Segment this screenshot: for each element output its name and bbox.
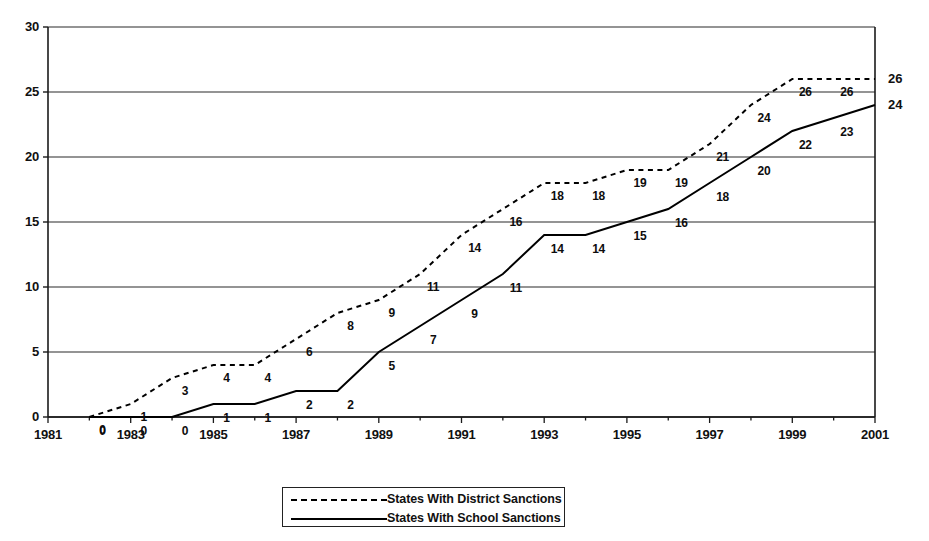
data-point-label: 1 <box>141 410 147 424</box>
data-point-label: 21 <box>716 150 729 164</box>
x-axis-tick-label: 1991 <box>432 427 492 442</box>
x-axis-tick-label: 2001 <box>845 427 905 442</box>
series-end-label: 24 <box>888 97 902 112</box>
data-point-label: 5 <box>389 359 395 373</box>
data-point-label: 19 <box>634 176 647 190</box>
data-point-label: 11 <box>510 281 522 295</box>
data-point-label: 26 <box>799 85 812 99</box>
dashed-line-icon <box>291 492 387 506</box>
data-point-label: 24 <box>758 111 771 125</box>
data-point-label: 20 <box>758 164 771 178</box>
data-point-label: 14 <box>551 242 564 256</box>
legend-item-school: States With School Sanctions <box>283 508 564 527</box>
data-point-label: 16 <box>675 216 688 230</box>
data-point-label: 26 <box>840 85 853 99</box>
data-point-label: 4 <box>265 371 271 385</box>
data-point-label: 18 <box>592 189 605 203</box>
x-axis-tick-label: 1997 <box>680 427 740 442</box>
data-point-label: 9 <box>389 306 395 320</box>
y-axis-tick-label: 10 <box>25 279 39 294</box>
gridlines <box>48 27 875 417</box>
y-axis-tick-label: 30 <box>25 19 39 34</box>
series-lines <box>89 79 875 417</box>
solid-line-icon <box>291 511 387 525</box>
data-point-label: 1 <box>265 411 271 425</box>
data-point-label: 14 <box>468 241 481 255</box>
data-point-label: 11 <box>427 280 439 294</box>
x-axis-tick-label: 1999 <box>762 427 822 442</box>
data-point-label: 9 <box>471 307 477 321</box>
data-point-label: 18 <box>716 190 729 204</box>
data-point-label: 1 <box>223 411 229 425</box>
data-point-label: 22 <box>799 138 812 152</box>
legend-item-label: States With School Sanctions <box>387 511 561 525</box>
x-axis-tick-label: 1995 <box>597 427 657 442</box>
y-axis-tick-label: 15 <box>25 214 39 229</box>
data-point-label: 2 <box>347 398 353 412</box>
data-point-label: 0 <box>141 424 147 438</box>
data-point-label: 23 <box>840 125 853 139</box>
data-point-label: 16 <box>509 215 522 229</box>
data-point-label: 6 <box>306 345 312 359</box>
legend-item-label: States With District Sanctions <box>387 492 562 506</box>
data-point-label: 0 <box>182 424 188 438</box>
data-point-label: 7 <box>430 333 436 347</box>
data-point-label: 15 <box>634 229 647 243</box>
x-axis-tick-label: 1993 <box>514 427 574 442</box>
legend: States With District Sanctions States Wi… <box>282 487 565 527</box>
data-point-label: 0 <box>99 424 105 438</box>
series-end-label: 26 <box>888 71 902 86</box>
legend-item-district: States With District Sanctions <box>283 489 564 508</box>
x-axis-tick-label: 1983 <box>101 427 161 442</box>
data-point-label: 3 <box>182 384 188 398</box>
data-point-label: 8 <box>347 319 353 333</box>
x-axis-tick-label: 1989 <box>349 427 409 442</box>
series-line-0 <box>89 79 875 417</box>
data-point-label: 18 <box>551 189 564 203</box>
series-line-1 <box>89 105 875 417</box>
data-point-label: 19 <box>675 176 688 190</box>
plot-area <box>0 0 929 541</box>
y-axis-tick-label: 5 <box>32 344 39 359</box>
y-axis-tick-label: 25 <box>25 84 39 99</box>
x-axis-tick-label: 1981 <box>18 427 78 442</box>
y-axis-tick-label: 20 <box>25 149 39 164</box>
data-point-label: 4 <box>223 371 229 385</box>
data-point-label: 2 <box>306 398 312 412</box>
chart-container: 051015202530 198119831985198719891991199… <box>0 0 929 541</box>
x-axis-tick-label: 1985 <box>183 427 243 442</box>
data-point-label: 14 <box>592 242 605 256</box>
x-axis-tick-label: 1987 <box>266 427 326 442</box>
y-axis-tick-label: 0 <box>32 409 39 424</box>
